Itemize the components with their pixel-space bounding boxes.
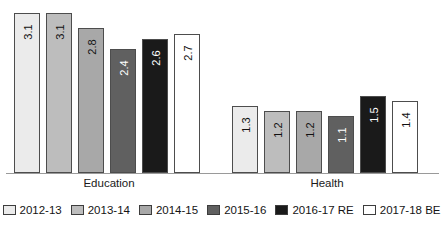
bar: 1.3 xyxy=(232,106,258,173)
legend-item[interactable]: 2012-13 xyxy=(3,204,62,217)
bar-chart: 3.13.12.82.42.62.7 1.31.21.21.11.51.4 Ed… xyxy=(0,0,443,228)
legend-item[interactable]: 2017-18 BE xyxy=(363,204,441,217)
legend-label: 2013-14 xyxy=(88,204,130,217)
bar: 2.8 xyxy=(78,28,104,173)
bar-group-health: 1.31.21.21.11.51.4 xyxy=(232,0,422,173)
legend-label: 2015-16 xyxy=(224,204,266,217)
bar-value-label: 1.5 xyxy=(361,100,387,130)
axis-baseline xyxy=(6,173,439,174)
bar-value-label: 2.4 xyxy=(111,53,137,83)
legend-swatch-icon xyxy=(71,205,84,215)
legend-swatch-icon xyxy=(207,205,220,215)
legend-swatch-icon xyxy=(3,205,16,215)
legend-label: 2014-15 xyxy=(156,204,198,217)
legend-label: 2016-17 RE xyxy=(292,204,353,217)
bar-value-label: 1.1 xyxy=(329,120,355,150)
bar-value-label: 3.1 xyxy=(47,17,73,47)
chart-legend: 2012-132013-142014-152015-162016-17 RE20… xyxy=(0,200,443,220)
bar-value-label: 1.4 xyxy=(393,105,419,135)
bar: 2.4 xyxy=(110,49,136,173)
legend-label: 2012-13 xyxy=(20,204,62,217)
bar-value-label: 2.6 xyxy=(143,43,169,73)
plot-area: 3.13.12.82.42.62.7 1.31.21.21.11.51.4 xyxy=(0,0,443,174)
legend-swatch-icon xyxy=(139,205,152,215)
category-label-education: Education xyxy=(14,176,204,190)
bar: 1.2 xyxy=(264,111,290,173)
category-axis: Education Health xyxy=(0,176,443,194)
bar: 1.4 xyxy=(392,101,418,173)
bar: 1.1 xyxy=(328,116,354,173)
legend-swatch-icon xyxy=(275,205,288,215)
category-label-health: Health xyxy=(232,176,422,190)
bar: 3.1 xyxy=(14,13,40,173)
legend-item[interactable]: 2015-16 xyxy=(207,204,266,217)
bar-group-education: 3.13.12.82.42.62.7 xyxy=(14,0,204,173)
bar-value-label: 3.1 xyxy=(15,17,41,47)
legend-item[interactable]: 2014-15 xyxy=(139,204,198,217)
bar: 1.2 xyxy=(296,111,322,173)
bar-value-label: 2.7 xyxy=(175,38,201,68)
legend-item[interactable]: 2016-17 RE xyxy=(275,204,353,217)
legend-label: 2017-18 BE xyxy=(380,204,441,217)
bar: 1.5 xyxy=(360,96,386,173)
bar-value-label: 2.8 xyxy=(79,32,105,62)
bar-value-label: 1.2 xyxy=(297,115,323,145)
legend-swatch-icon xyxy=(363,205,376,215)
bar: 2.6 xyxy=(142,39,168,173)
bar-value-label: 1.2 xyxy=(265,115,291,145)
bar: 2.7 xyxy=(174,34,200,173)
bar-value-label: 1.3 xyxy=(233,110,259,140)
bar: 3.1 xyxy=(46,13,72,173)
legend-item[interactable]: 2013-14 xyxy=(71,204,130,217)
